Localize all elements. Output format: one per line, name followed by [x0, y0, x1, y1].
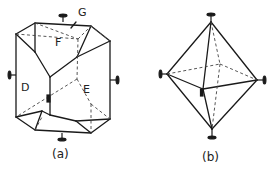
axis-bottom-icon — [208, 129, 216, 139]
twofold-axis-right-icon — [110, 76, 119, 84]
twofold-axis-left-icon — [8, 71, 16, 79]
caption-b: (b) — [202, 150, 219, 164]
caption-a: (a) — [52, 147, 69, 161]
fourfold-axis-front-icon — [47, 95, 50, 102]
twofold-axis-top-icon — [59, 14, 67, 22]
crystal-diagrams: G F D E (a) (b) — [0, 0, 277, 176]
axis-front-icon — [201, 89, 204, 96]
figure-b-octahedron: (b) — [159, 13, 266, 164]
axis-right-icon — [257, 76, 266, 84]
face-label-e: E — [83, 83, 90, 96]
face-label-f: F — [55, 36, 61, 49]
face-label-g: G — [78, 6, 87, 19]
face-label-d: D — [21, 81, 29, 94]
twofold-axis-bottom-icon — [58, 133, 66, 141]
figure-a-crystal: G F D E (a) — [8, 6, 119, 161]
axis-top-icon — [207, 13, 215, 22]
axis-left-icon — [159, 70, 167, 78]
